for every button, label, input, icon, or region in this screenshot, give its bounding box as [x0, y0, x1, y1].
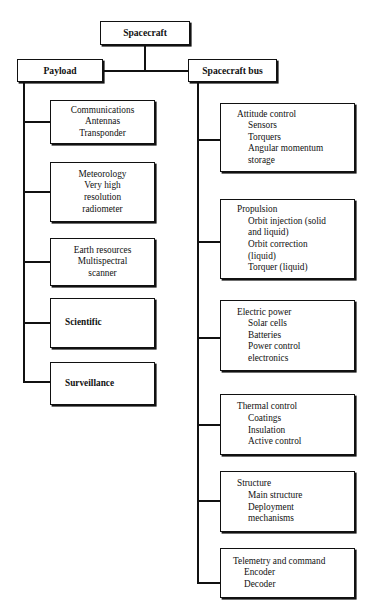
node-line: Main structure	[237, 490, 354, 502]
node-spacecraft-label: Spacecraft	[101, 27, 189, 39]
connector-payload-spine	[23, 82, 25, 383]
node-line: Sensors	[237, 120, 354, 132]
node-line: Angular momentum	[237, 143, 354, 155]
node-line: Deployment	[237, 502, 354, 514]
node-line: Communications	[56, 105, 149, 117]
node-line: storage	[237, 155, 354, 167]
node-line: Electric power	[237, 307, 354, 319]
node-line: Encoder	[233, 567, 354, 579]
node-line: Telemetry and command	[233, 556, 354, 568]
node-line: resolution	[56, 192, 149, 204]
node-line: Scientific	[65, 317, 154, 329]
connector-root-crossbar	[103, 70, 189, 72]
connector-payload-stub-4	[23, 322, 52, 324]
node-line: Coatings	[237, 413, 354, 425]
node-payload: Payload	[17, 59, 103, 82]
node-line: Structure	[237, 478, 354, 490]
node-line: radiometer	[56, 204, 149, 216]
node-line: Very high	[56, 180, 149, 192]
node-line: Active control	[237, 436, 354, 448]
node-surveillance: Surveillance	[50, 362, 155, 405]
node-propulsion: Propulsion Orbit injection (solid and li…	[220, 199, 355, 279]
node-payload-label: Payload	[18, 65, 102, 77]
node-telemetry-and-command: Telemetry and command Encoder Decoder	[220, 548, 355, 598]
node-line: Earth resources	[56, 245, 149, 257]
node-line: Insulation	[237, 425, 354, 437]
node-line: Torquer (liquid)	[237, 262, 354, 274]
node-line: Power control	[237, 341, 354, 353]
connector-bus-spine	[197, 82, 199, 584]
connector-payload-stub-5	[23, 381, 52, 383]
node-structure: Structure Main structure Deployment mech…	[220, 471, 355, 532]
node-line: Multispectral	[56, 256, 149, 268]
node-line: Orbit injection (solid	[237, 216, 354, 228]
node-line: and liquid)	[237, 227, 354, 239]
node-line: Propulsion	[237, 204, 354, 216]
connector-payload-stub-3	[23, 261, 52, 263]
connector-root-stem	[144, 45, 146, 71]
connector-bus-stub-3	[197, 337, 221, 339]
node-line: electronics	[237, 353, 354, 365]
node-line: Meteorology	[56, 169, 149, 181]
node-line: Batteries	[237, 330, 354, 342]
node-spacecraft: Spacecraft	[100, 21, 190, 45]
node-scientific: Scientific	[50, 298, 155, 348]
node-line: Surveillance	[65, 378, 154, 390]
connector-bus-stub-2	[197, 241, 221, 243]
connector-payload-stub-1	[23, 121, 52, 123]
node-line: (liquid)	[237, 251, 354, 263]
node-line: Attitude control	[237, 109, 354, 121]
node-spacecraft-bus-label: Spacecraft bus	[189, 65, 276, 77]
node-meteorology: Meteorology Very high resolution radiome…	[50, 162, 155, 222]
node-line: Transponder	[56, 128, 149, 140]
spacecraft-hierarchy-diagram: Spacecraft Payload Spacecraft bus Commun…	[0, 0, 370, 612]
connector-bus-stub-6	[197, 582, 221, 584]
node-attitude-control: Attitude control Sensors Torquers Angula…	[220, 103, 355, 172]
node-thermal-control: Thermal control Coatings Insulation Acti…	[220, 394, 355, 455]
connector-bus-stub-1	[197, 139, 221, 141]
node-line: scanner	[56, 268, 149, 280]
node-spacecraft-bus: Spacecraft bus	[188, 59, 277, 82]
node-electric-power: Electric power Solar cells Batteries Pow…	[220, 300, 355, 371]
connector-bus-stub-5	[197, 500, 221, 502]
node-line: Solar cells	[237, 318, 354, 330]
node-line: Thermal control	[237, 401, 354, 413]
node-communications: Communications Antennas Transponder	[50, 100, 155, 144]
node-earth-resources: Earth resources Multispectral scanner	[50, 238, 155, 286]
node-line: Torquers	[237, 132, 354, 144]
node-line: mechanisms	[237, 513, 354, 525]
connector-payload-stub-2	[23, 191, 52, 193]
node-line: Orbit correction	[237, 239, 354, 251]
node-line: Antennas	[56, 116, 149, 128]
node-line: Decoder	[233, 579, 354, 591]
connector-bus-stub-4	[197, 424, 221, 426]
